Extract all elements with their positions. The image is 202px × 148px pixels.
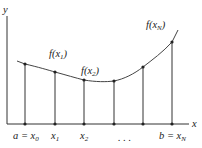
label-f-xN: f(xN) — [146, 19, 166, 32]
axis-point — [23, 122, 26, 125]
label-f-x2: f(x2) — [81, 65, 100, 78]
tick-label-x1: x1 — [50, 130, 59, 143]
axis-point — [112, 122, 115, 125]
tick-label-ellipsis: . . . — [118, 132, 131, 143]
label-f-x1: f(x1) — [49, 48, 68, 61]
axis-point — [82, 122, 85, 125]
curve-point — [141, 65, 144, 68]
curve-point — [112, 79, 115, 82]
curve-point — [53, 70, 56, 73]
y-axis-label: y — [2, 4, 8, 15]
curve-point — [82, 78, 85, 81]
x-axis-label: x — [191, 118, 197, 129]
tick-label-a-x0: a = x0 — [13, 130, 39, 143]
tick-label-x2: x2 — [79, 130, 89, 143]
axis-point — [141, 122, 144, 125]
curve-point — [23, 62, 26, 65]
tick-label-b-xN: b = xN — [159, 130, 186, 143]
axis-point — [170, 122, 173, 125]
curve-point — [170, 40, 173, 43]
partition-diagram: y x f(x1) f(x2) f(xN) a = x0 x1 x2 . . .… — [0, 0, 202, 148]
axis-point — [53, 122, 56, 125]
